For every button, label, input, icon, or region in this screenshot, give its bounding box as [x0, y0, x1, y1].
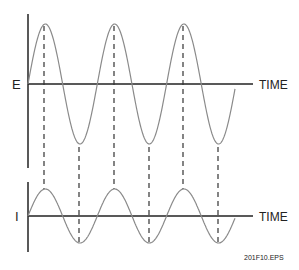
- i-axis-label: I: [15, 209, 19, 224]
- e-axis-label: E: [12, 77, 21, 92]
- waveform-diagram: E TIME I TIME 201F10.EPS: [0, 0, 299, 270]
- phase-guide-lines: [44, 26, 218, 242]
- i-time-label: TIME: [259, 210, 288, 224]
- e-time-label: TIME: [259, 78, 288, 92]
- figure-id: 201F10.EPS: [244, 254, 284, 261]
